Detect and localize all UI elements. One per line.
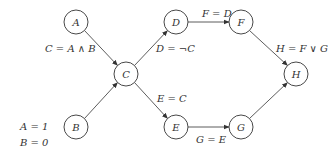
svg-text:H: H bbox=[291, 69, 301, 80]
node-h: H bbox=[284, 62, 308, 86]
label-e-equation: E = C bbox=[156, 93, 187, 104]
node-g: G bbox=[229, 115, 253, 139]
node-a: A bbox=[64, 10, 88, 34]
input-b-value: B = 0 bbox=[19, 137, 49, 148]
logic-diagram: A B C D E F G H C = A ∧ B D = ¬C E = C F… bbox=[0, 0, 335, 155]
label-g-equation: G = E bbox=[196, 134, 227, 145]
edge-g-h bbox=[250, 83, 288, 119]
node-e: E bbox=[164, 115, 188, 139]
node-b: B bbox=[64, 115, 88, 139]
label-h-equation: H = F ∨ G bbox=[275, 43, 328, 54]
label-d-equation: D = ¬C bbox=[155, 43, 195, 54]
svg-text:A: A bbox=[71, 17, 79, 28]
svg-text:F: F bbox=[237, 17, 246, 28]
node-c: C bbox=[114, 62, 138, 86]
input-a-value: A = 1 bbox=[19, 121, 48, 132]
svg-text:E: E bbox=[171, 122, 180, 133]
label-f-equation: F = D bbox=[201, 8, 232, 19]
svg-text:B: B bbox=[71, 122, 79, 133]
svg-text:G: G bbox=[237, 122, 245, 133]
node-d: D bbox=[164, 10, 188, 34]
label-c-equation: C = A ∧ B bbox=[45, 43, 96, 54]
svg-text:C: C bbox=[122, 69, 130, 80]
node-f: F bbox=[229, 10, 253, 34]
edge-b-c bbox=[85, 83, 118, 119]
svg-text:D: D bbox=[171, 17, 180, 28]
